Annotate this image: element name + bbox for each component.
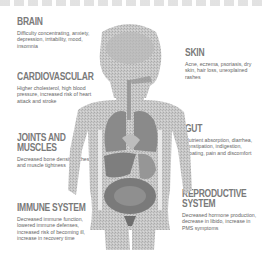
top-banner [0,0,263,6]
brain-organ [106,32,154,64]
trachea [127,80,131,120]
human-body-illustration [60,20,200,250]
